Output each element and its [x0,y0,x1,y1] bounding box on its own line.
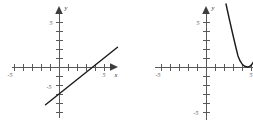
x-axis-name-label: x [114,71,118,78]
y-axis-arrow-icon [55,6,63,14]
y-axis-positive-tick-label: 5 [197,20,200,26]
x-axis-positive-tick-label: 5 [103,72,106,78]
y-axis-name-label: y [211,4,215,11]
line-plot-svg: -5 5 5 -5 x y [0,0,127,127]
plot-panel-line: -5 5 5 -5 x y [0,0,127,127]
x-axis-arrow-icon [110,63,118,71]
x-axis-negative-tick-label: -5 [8,72,13,78]
y-axis-positive-tick-label: 5 [50,20,53,26]
figure-container: -5 5 5 -5 x y [0,0,253,127]
y-axis-arrow-icon [202,6,210,14]
y-axis-name-label: y [64,4,68,11]
x-axis-positive-tick-label: 5 [250,72,253,78]
parabola-series-path [226,4,253,67]
y-axis-negative-tick-label: -5 [47,84,52,90]
parabola-plot-svg: -5 5 5 -5 y [127,0,253,127]
x-axis-negative-tick-label: -5 [156,72,161,78]
plot-panel-parabola: -5 5 5 -5 y [127,0,253,127]
y-axis-negative-tick-label: -5 [194,110,199,116]
